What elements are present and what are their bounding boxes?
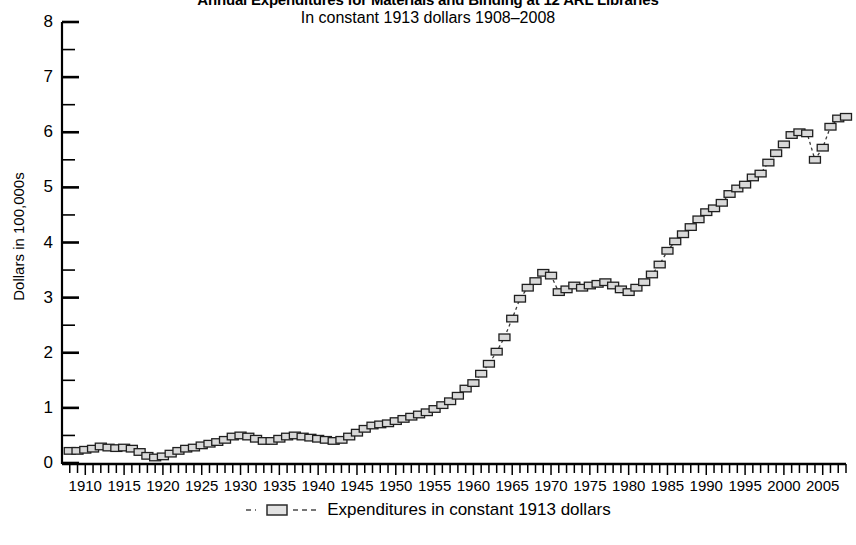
x-tick-label: 1930	[219, 478, 263, 493]
x-tick-label: 1975	[568, 478, 612, 493]
x-tick-label: 2005	[801, 478, 845, 493]
x-tick-label: 1985	[645, 478, 689, 493]
x-tick-label: 1945	[335, 478, 379, 493]
x-tick-label: 1910	[63, 478, 107, 493]
chart-container: Annual Expenditures for Materials and Bi…	[0, 0, 856, 545]
x-tick-label: 1925	[180, 478, 224, 493]
legend: Expenditures in constant 1913 dollars	[0, 500, 856, 520]
x-tick-label: 1970	[529, 478, 573, 493]
x-tick-label: 1920	[141, 478, 185, 493]
y-tick-label: 1	[31, 399, 53, 416]
x-tick-label: 1915	[102, 478, 146, 493]
data-series	[64, 114, 851, 461]
x-tick-label: 1955	[413, 478, 457, 493]
x-tick-label: 1940	[296, 478, 340, 493]
y-tick-label: 2	[31, 344, 53, 361]
y-tick-label: 7	[31, 68, 53, 85]
legend-label: Expenditures in constant 1913 dollars	[327, 500, 611, 520]
x-tick-label: 1960	[451, 478, 495, 493]
y-tick-label: 0	[31, 454, 53, 471]
y-tick-label: 8	[31, 13, 53, 30]
y-tick-label: 4	[31, 234, 53, 251]
x-tick-label: 2000	[762, 478, 806, 493]
y-tick-label: 5	[31, 178, 53, 195]
x-tick-label: 1935	[257, 478, 301, 493]
x-tick-label: 1990	[684, 478, 728, 493]
x-tick-label: 1995	[723, 478, 767, 493]
x-tick-label: 1950	[374, 478, 418, 493]
legend-marker-icon	[245, 502, 319, 518]
axes	[62, 22, 846, 475]
plot-area	[0, 0, 856, 545]
x-tick-label: 1965	[490, 478, 534, 493]
y-tick-label: 6	[31, 123, 53, 140]
y-tick-label: 3	[31, 289, 53, 306]
x-tick-label: 1980	[607, 478, 651, 493]
